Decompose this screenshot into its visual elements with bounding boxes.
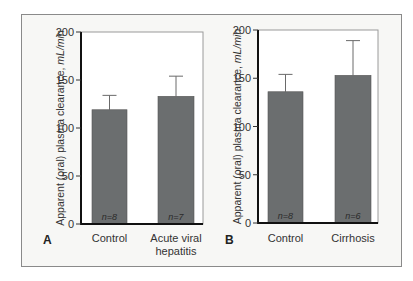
chart-panel-b: n=8Controln=6Cirrhosis050100150200Appare… <box>225 24 378 247</box>
sample-size-label: n=8 <box>278 211 293 221</box>
sample-size-label: n=8 <box>102 212 117 222</box>
x-category-label: Acute viral <box>150 232 201 244</box>
bar <box>92 110 127 224</box>
bar <box>268 92 303 223</box>
panel-letter: B <box>225 233 234 247</box>
x-category-label: Control <box>268 232 303 244</box>
bar <box>158 96 194 224</box>
y-axis-label: Apparent (oral) plasma clearance, mL/min <box>54 30 66 226</box>
bar-chart-figure: n=8Controln=7Acute viralhepatitis0501001… <box>0 0 413 281</box>
chart-panel-a: n=8Controln=7Acute viralhepatitis0501001… <box>43 26 203 257</box>
sample-size-label: n=7 <box>168 212 184 222</box>
bar <box>335 75 371 223</box>
y-tick-label: 0 <box>245 217 251 229</box>
y-tick-label: 0 <box>68 218 74 230</box>
y-axis-label: Apparent (oral) plasma clearance, mL/min <box>231 29 243 225</box>
x-category-label: hepatitis <box>156 245 197 257</box>
x-category-label: Control <box>92 232 127 244</box>
panel-letter: A <box>43 233 52 247</box>
sample-size-label: n=6 <box>345 211 360 221</box>
x-category-label: Cirrhosis <box>331 232 375 244</box>
